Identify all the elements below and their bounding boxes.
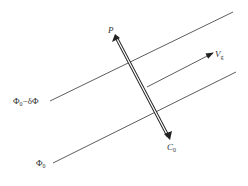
- label-p: P: [108, 26, 114, 35]
- label-phi-lower-main: Φ: [36, 158, 43, 168]
- double-arrow-p-c: [112, 34, 172, 140]
- label-phi-lower-sub: 0: [43, 163, 46, 169]
- label-phi-upper: Φ0−δΦ: [13, 97, 39, 107]
- label-phi-upper-main: Φ: [13, 96, 20, 106]
- label-phi-upper-rest: −δΦ: [23, 96, 39, 106]
- label-vg: Vg: [215, 50, 224, 60]
- label-v-sub: g: [221, 54, 224, 60]
- label-c0: C0: [167, 143, 176, 153]
- label-phi-lower: Φ0: [36, 159, 46, 169]
- label-c-sub: 0: [173, 147, 176, 153]
- velocity-arrow: [147, 53, 213, 87]
- contour-line-lower: [53, 72, 236, 163]
